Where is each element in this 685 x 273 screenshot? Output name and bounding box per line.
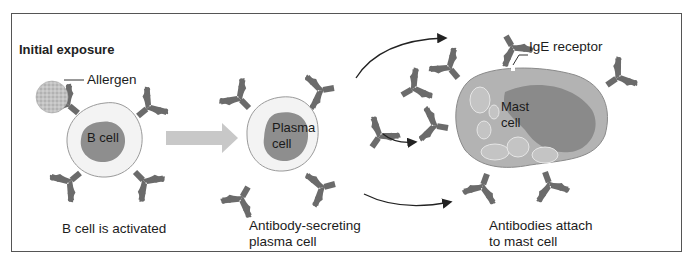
plasma-cell-label-line2: cell bbox=[272, 136, 292, 152]
callout-allergen: Allergen bbox=[87, 72, 137, 88]
allergy-sensitization-diagram: Initial exposure Allergen B cell B cell … bbox=[0, 0, 685, 273]
plasma-cell-label-line1: Plasma bbox=[272, 120, 315, 136]
plasma-cell-group bbox=[217, 66, 434, 219]
mast-cell-label-line1: Mast bbox=[501, 99, 529, 115]
caption-mast-line1: Antibodies attach bbox=[489, 218, 593, 234]
b-cell-label: B cell bbox=[87, 130, 119, 146]
caption-mast-line2: to mast cell bbox=[489, 234, 557, 250]
heading-initial-exposure: Initial exposure bbox=[19, 42, 114, 58]
callout-ige-receptor: IgE receptor bbox=[529, 39, 603, 55]
caption-plasma-line2: plasma cell bbox=[249, 234, 317, 250]
caption-b-cell-activated: B cell is activated bbox=[62, 221, 166, 237]
mast-cell-label-line2: cell bbox=[501, 115, 521, 131]
caption-plasma-line1: Antibody-secreting bbox=[249, 218, 361, 234]
progression-arrow bbox=[166, 123, 238, 153]
